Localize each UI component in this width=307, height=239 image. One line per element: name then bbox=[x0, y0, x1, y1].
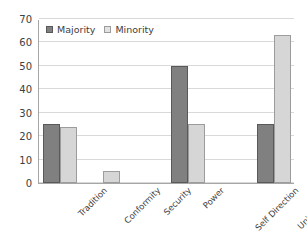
legend-entry-minority: Minority bbox=[104, 24, 154, 35]
gridline-70 bbox=[39, 18, 294, 19]
bar bbox=[171, 66, 188, 183]
bar bbox=[60, 127, 77, 183]
bar bbox=[103, 171, 120, 183]
legend-label-majority: Majority bbox=[57, 24, 95, 35]
x-tick-label: Conformity bbox=[123, 186, 163, 226]
y-tick-label-60: 60 bbox=[19, 38, 32, 48]
y-tick-label-40: 40 bbox=[19, 85, 32, 95]
plot-area bbox=[38, 20, 294, 184]
bar-group bbox=[252, 20, 295, 183]
x-tick-label: Tradition bbox=[77, 186, 109, 218]
y-tick-label-50: 50 bbox=[19, 62, 32, 72]
bar-chart: 010203040506070 Majority Minority Tradit… bbox=[0, 0, 307, 239]
y-axis: 010203040506070 bbox=[0, 0, 36, 190]
bars-layer bbox=[39, 20, 294, 183]
x-axis: TraditionConformitySecurityPowerSelf Dir… bbox=[0, 186, 307, 239]
minority-swatch-icon bbox=[104, 26, 111, 33]
y-tick-label-20: 20 bbox=[19, 132, 32, 142]
bar bbox=[274, 35, 291, 183]
x-tick-label: Self Direction bbox=[254, 186, 301, 233]
bar bbox=[188, 124, 205, 183]
chart-legend: Majority Minority bbox=[46, 24, 154, 35]
x-tick-label: Security bbox=[162, 186, 193, 217]
legend-label-minority: Minority bbox=[115, 24, 154, 35]
bar-group bbox=[124, 20, 167, 183]
y-tick-label-10: 10 bbox=[19, 156, 32, 166]
bar-group bbox=[167, 20, 210, 183]
y-tick-label-70: 70 bbox=[19, 15, 32, 25]
x-tick-label: Power bbox=[202, 186, 227, 211]
y-tick-label-30: 30 bbox=[19, 109, 32, 119]
bar-group bbox=[39, 20, 82, 183]
bar-group bbox=[82, 20, 125, 183]
majority-swatch-icon bbox=[46, 26, 53, 33]
bar bbox=[43, 124, 60, 183]
bar bbox=[257, 124, 274, 183]
bar-group bbox=[210, 20, 253, 183]
legend-entry-majority: Majority bbox=[46, 24, 95, 35]
